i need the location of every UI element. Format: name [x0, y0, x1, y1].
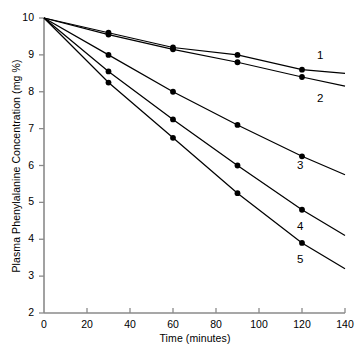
data-point-marker	[299, 207, 305, 213]
data-point-marker	[299, 240, 305, 246]
x-axis-tick-label: 0	[31, 318, 57, 330]
series-label-3: 3	[297, 159, 303, 171]
data-point-marker	[235, 59, 241, 65]
data-point-marker	[106, 69, 112, 75]
data-point-marker	[299, 67, 305, 73]
data-point-marker	[235, 190, 241, 196]
data-point-marker	[299, 74, 305, 80]
data-point-marker	[235, 52, 241, 58]
series-label-1: 1	[317, 49, 323, 61]
y-axis-title: Plasma Phenylalanine Concentration (mg %…	[10, 46, 22, 286]
data-point-marker	[170, 89, 176, 95]
plot-area	[0, 0, 360, 351]
x-axis-tick-label: 100	[246, 318, 272, 330]
x-axis-tick-label: 60	[160, 318, 186, 330]
data-point-marker	[235, 122, 241, 128]
series-label-4: 4	[297, 220, 303, 232]
data-point-marker	[106, 32, 112, 38]
x-axis-tick-label: 40	[117, 318, 143, 330]
series-line	[44, 18, 345, 175]
data-point-marker	[170, 135, 176, 141]
x-axis-tick-label: 80	[203, 318, 229, 330]
series-markers	[106, 30, 305, 246]
x-axis-tick-label: 140	[332, 318, 358, 330]
x-axis-tick-label: 20	[74, 318, 100, 330]
series-label-5: 5	[297, 253, 303, 265]
data-point-marker	[170, 117, 176, 123]
chart-figure: 2345678910 020406080100120140 12345 Plas…	[0, 0, 360, 351]
series-line	[44, 18, 345, 236]
data-point-marker	[106, 80, 112, 86]
data-point-marker	[106, 52, 112, 58]
series-label-2: 2	[317, 92, 323, 104]
y-axis-tick-label: 10	[12, 11, 34, 23]
x-axis-title: Time (minutes)	[44, 332, 346, 344]
data-point-marker	[170, 46, 176, 52]
x-axis-tick-label: 120	[289, 318, 315, 330]
data-point-marker	[235, 163, 241, 169]
series-line	[44, 18, 345, 73]
y-axis-tick-label: 2	[12, 306, 34, 318]
